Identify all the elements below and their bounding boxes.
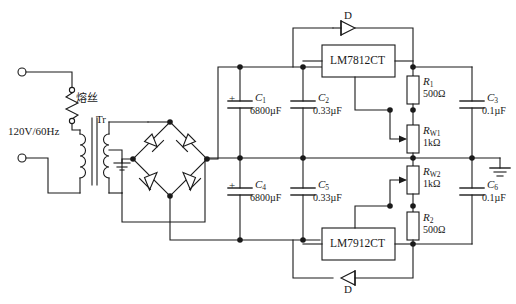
wire-fuse-to-primary	[72, 124, 80, 130]
node-c1-top	[237, 64, 243, 70]
wire-rw1-wiper	[390, 110, 405, 139]
node-c2-top	[300, 64, 306, 70]
node-c3-c6	[469, 155, 475, 161]
r2-body-icon	[407, 212, 419, 240]
fuse-label: 熔丝	[76, 93, 98, 105]
node-c4-bottom	[237, 237, 243, 243]
node-u2-output	[410, 241, 416, 247]
circuit-schematic	[0, 0, 516, 304]
r1-value: 500Ω	[423, 89, 445, 100]
rw2-wiper-arrow-icon	[399, 177, 407, 184]
node-u1-gnd-wiper	[387, 107, 393, 113]
wire-center-tap	[109, 150, 122, 163]
node-c5-bottom	[300, 237, 306, 243]
rw1-body-icon	[407, 125, 419, 153]
diode-top-icon	[341, 21, 355, 35]
wire-input-bottom	[26, 158, 80, 193]
fuse-terminal-lower-icon	[69, 118, 74, 123]
node-resistor-mid	[410, 155, 416, 161]
bridge-diode-2-icon	[177, 134, 196, 152]
ac-terminal-bottom-icon	[18, 154, 26, 162]
node-c2-bottom	[300, 155, 306, 161]
transformer-primary-winding-icon	[80, 134, 86, 178]
wire-u1-ground-to-wiper	[355, 77, 390, 110]
node-bridge-top	[167, 119, 173, 125]
c3-name: C3	[487, 92, 498, 105]
c2-name: C2	[318, 92, 329, 105]
c4-polarity-label: +	[229, 179, 235, 191]
c6-name: C6	[487, 179, 498, 192]
ac-terminal-top-icon	[18, 68, 26, 76]
schematic-canvas: 120V/60Hz 熔丝 Tr LM7812CT LM7912CT D D + …	[0, 0, 516, 304]
diode-top-label: D	[344, 10, 352, 22]
node-r1-rw1	[410, 107, 416, 113]
rw1-value: 1kΩ	[423, 138, 440, 149]
lm7912ct-label: LM7912CT	[330, 237, 385, 249]
fuse-terminal-upper-icon	[69, 87, 74, 92]
node-u1-output	[410, 64, 416, 70]
wire-common-rail	[122, 158, 240, 222]
c4-value: 6800µF	[250, 193, 281, 204]
wire-u2-ground-to-wiper	[355, 206, 390, 228]
rw2-value: 1kΩ	[423, 179, 440, 190]
c2-value: 0.33µF	[313, 106, 342, 117]
bridge-diode-3-icon	[140, 173, 158, 191]
wire-input-top	[26, 72, 72, 88]
c1-value: 6800µF	[250, 106, 281, 117]
node-c1-bottom	[237, 155, 243, 161]
c5-value: 0.33µF	[313, 193, 342, 204]
node-u2-gnd-wiper	[387, 203, 393, 209]
transformer-label: Tr	[96, 114, 106, 126]
c1-polarity-label: +	[229, 92, 235, 104]
c1-name: C1	[255, 92, 266, 105]
bridge-diode-1-icon	[145, 134, 164, 152]
bridge-diode-4-icon	[183, 173, 201, 191]
wire-rw2-wiper	[390, 180, 405, 206]
rw1-wiper-arrow-icon	[399, 136, 407, 143]
diode-bottom-label: D	[344, 284, 352, 296]
node-rw2-r2	[410, 203, 416, 209]
wire-bridge-positive-out	[207, 67, 240, 159]
r1-body-icon	[407, 76, 419, 104]
c3-value: 0.1µF	[482, 106, 506, 117]
c4-name: C4	[255, 179, 266, 192]
source-voltage-label: 120V/60Hz	[8, 126, 59, 138]
c6-value: 0.1µF	[482, 193, 506, 204]
lm7812ct-label: LM7812CT	[330, 54, 385, 66]
r2-value: 500Ω	[423, 225, 445, 236]
transformer-secondary-winding-icon	[104, 134, 110, 178]
wire-bridge-left-to-secondary	[122, 159, 133, 193]
c5-name: C5	[318, 179, 329, 192]
rw2-body-icon	[407, 166, 419, 194]
